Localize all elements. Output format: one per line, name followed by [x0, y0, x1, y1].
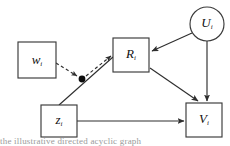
- node-z[interactable]: zi: [41, 105, 77, 137]
- edge-z-to-R: [59, 57, 113, 105]
- junction-dot: [79, 76, 86, 83]
- node-w[interactable]: wi: [18, 42, 56, 78]
- graph-canvas: wi Ri zi Vi Ui: [0, 0, 230, 146]
- node-V[interactable]: Vi: [186, 103, 222, 137]
- causal-diagram-figure: wi Ri zi Vi Ui: [0, 0, 230, 146]
- node-R[interactable]: Ri: [113, 38, 149, 72]
- clipped-caption-text: the illustrative directed acyclic graph: [0, 137, 230, 146]
- edge-U-to-R: [152, 33, 192, 51]
- node-U[interactable]: Ui: [190, 7, 224, 41]
- edge-junction-to-R: [86, 56, 111, 76]
- edge-w-to-junction: [56, 63, 77, 76]
- edge-R-to-V: [150, 68, 198, 101]
